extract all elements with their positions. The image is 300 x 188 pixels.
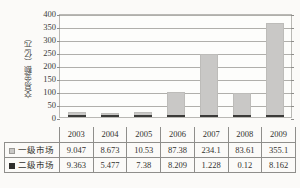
y-axis-tick-0: 0 [52, 114, 56, 123]
table-body: 一级市场9.0478.67310.5387.38234.183.61355.1二… [5, 142, 296, 172]
bar-slot-2008 [225, 15, 258, 117]
bar-stack-2007[interactable] [200, 54, 218, 117]
y-axis-tickmark-right [291, 106, 294, 107]
y-axis-tickmark-right [291, 119, 294, 120]
y-axis-tickmark [57, 119, 60, 120]
bar-slot-2003 [60, 15, 93, 117]
y-axis-tickmark-right [291, 93, 294, 94]
legend-swatch-icon-primary [9, 148, 15, 154]
legend-label: 一级市场 [18, 145, 54, 155]
table-header-year-2006: 2006 [161, 127, 195, 142]
table-cell: 83.61 [228, 142, 262, 157]
bar-segment-secondary-2005[interactable] [134, 115, 152, 117]
table-header: 2003200420052006200720082009 [5, 127, 296, 142]
data-table-wrapper: 2003200420052006200720082009 一级市场9.0478.… [4, 127, 296, 173]
table-cell: 234.1 [194, 142, 228, 157]
bar-slot-2007 [192, 15, 225, 117]
legend-swatch-icon-secondary [9, 163, 15, 169]
table-cell: 7.38 [127, 157, 161, 172]
y-axis-tick-labels: 400350300250200150100500 [36, 14, 58, 118]
bar-segment-primary-2007[interactable] [200, 54, 218, 115]
table-cell: 10.53 [127, 142, 161, 157]
y-axis-tickmark-right [291, 41, 294, 42]
bar-stack-2005[interactable] [134, 112, 152, 117]
table-row: 一级市场9.0478.67310.5387.38234.183.61355.1 [5, 142, 296, 157]
y-axis-tickmark-right [291, 15, 294, 16]
table-cell: 8.162 [262, 157, 296, 172]
legend-item-secondary[interactable]: 二级市场 [5, 157, 60, 172]
data-table: 2003200420052006200720082009 一级市场9.0478.… [4, 127, 296, 173]
bar-segment-secondary-2008[interactable] [233, 115, 251, 117]
y-axis-tick-350: 350 [43, 23, 56, 32]
bar-segment-secondary-2004[interactable] [101, 115, 119, 117]
table-cell: 1.228 [194, 157, 228, 172]
y-axis-tick-300: 300 [43, 36, 56, 45]
bar-stack-2009[interactable] [266, 23, 284, 117]
table-row: 二级市场9.3635.4777.388.2091.2280.128.162 [5, 157, 296, 172]
bar-stack-2004[interactable] [101, 113, 119, 117]
bar-stack-2008[interactable] [233, 93, 251, 117]
y-axis-tick-200: 200 [43, 62, 56, 71]
y-axis-tickmark-right [291, 67, 294, 68]
table-cell: 8.673 [93, 142, 127, 157]
bar-segment-primary-2009[interactable] [266, 23, 284, 115]
plot-area [59, 14, 292, 118]
table-header-year-2007: 2007 [194, 127, 228, 142]
bar-segment-secondary-2003[interactable] [68, 115, 86, 117]
legend-label: 二级市场 [18, 160, 54, 170]
y-axis-tickmark-right [291, 80, 294, 81]
y-axis-tickmark-right [291, 54, 294, 55]
table-cell: 0.12 [228, 157, 262, 172]
table-cell: 9.047 [60, 142, 94, 157]
bar-segment-secondary-2006[interactable] [167, 115, 185, 117]
table-header-row: 2003200420052006200720082009 [5, 127, 296, 142]
y-axis-tick-50: 50 [48, 101, 57, 110]
y-axis-tick-100: 100 [43, 88, 56, 97]
bar-slot-2005 [126, 15, 159, 117]
bar-stack-2006[interactable] [167, 92, 185, 117]
bar-stack-2003[interactable] [68, 112, 86, 117]
bar-segment-primary-2008[interactable] [233, 93, 251, 115]
table-cell: 355.1 [262, 142, 296, 157]
y-axis-tickmark-right [291, 28, 294, 29]
y-axis-tick-400: 400 [43, 10, 56, 19]
table-header-year-2005: 2005 [127, 127, 161, 142]
y-axis-tick-150: 150 [43, 75, 56, 84]
table-cell: 5.477 [93, 157, 127, 172]
bar-slot-2006 [159, 15, 192, 117]
bar-slot-2004 [93, 15, 126, 117]
table-header-year-2008: 2008 [228, 127, 262, 142]
table-cell: 87.38 [161, 142, 195, 157]
bar-segment-secondary-2009[interactable] [266, 115, 284, 117]
table-header-year-2004: 2004 [93, 127, 127, 142]
table-corner-cell [5, 127, 60, 142]
legend-item-primary[interactable]: 一级市场 [5, 142, 60, 157]
bar-segment-secondary-2007[interactable] [200, 115, 218, 117]
chart-plot-region: 交易金额（亿元） 400350300250200150100500 [0, 0, 300, 130]
table-cell: 8.209 [161, 157, 195, 172]
table-header-year-2009: 2009 [262, 127, 296, 142]
table-header-year-2003: 2003 [60, 127, 94, 142]
table-cell: 9.363 [60, 157, 94, 172]
bar-slot-2009 [258, 15, 291, 117]
bar-series-container [60, 15, 291, 117]
stacked-bar-chart-figure: 交易金额（亿元） 400350300250200150100500 200320… [0, 0, 300, 188]
bar-segment-primary-2006[interactable] [167, 92, 185, 115]
y-axis-tick-250: 250 [43, 49, 56, 58]
y-axis-title: 交易金额（亿元） [22, 14, 36, 118]
